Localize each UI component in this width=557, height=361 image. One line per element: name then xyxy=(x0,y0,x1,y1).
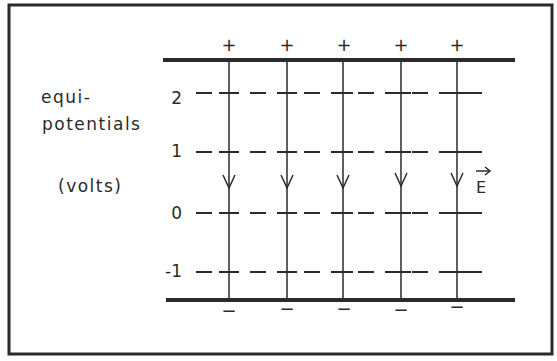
negative-charge: − xyxy=(391,299,411,320)
tick-label-2: 2 xyxy=(152,88,182,108)
equipotential-lines xyxy=(196,93,493,272)
tick-label-minus-1: -1 xyxy=(152,261,182,281)
electric-field-lines xyxy=(223,60,463,300)
negative-charge: − xyxy=(334,298,354,319)
positive-charge: + xyxy=(219,34,239,55)
negative-charge: − xyxy=(447,296,467,317)
positive-charge: + xyxy=(334,34,354,55)
positive-charge: + xyxy=(391,34,411,55)
vector-arrow-icon xyxy=(476,167,490,175)
negative-charge: − xyxy=(219,300,239,321)
tick-label-1: 1 xyxy=(152,141,182,161)
positive-charge: + xyxy=(447,34,467,55)
positive-charge: + xyxy=(277,34,297,55)
axis-units-label: (volts) xyxy=(58,176,122,196)
field-label-e: E xyxy=(476,178,486,197)
axis-label-line2: potentials xyxy=(42,114,141,134)
axis-label-line1: equi- xyxy=(41,87,91,107)
negative-charge: − xyxy=(277,298,297,319)
tick-label-0: 0 xyxy=(152,203,182,223)
